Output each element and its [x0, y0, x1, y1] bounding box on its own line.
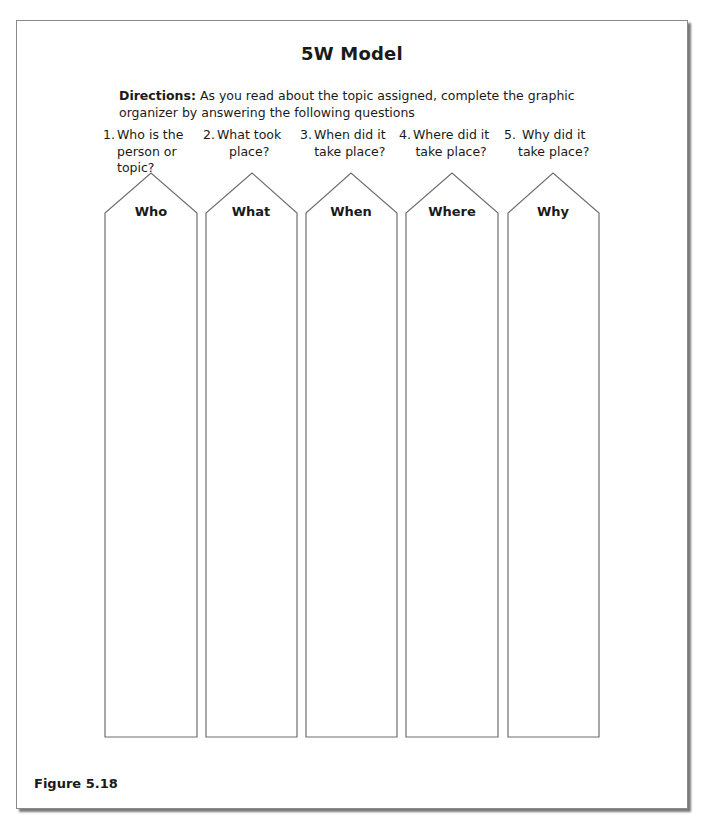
question-number: 5. — [504, 127, 516, 144]
question-line: What took — [217, 127, 281, 144]
arrow-label-where: Where — [407, 205, 499, 220]
directions-text: Directions: As you read about the topic … — [119, 88, 599, 121]
question-text: Why did it take place? — [518, 127, 589, 160]
question-line: Where did it — [413, 127, 489, 144]
question-number: 1. — [103, 127, 115, 144]
question-line: place? — [217, 144, 281, 161]
question-line: take place? — [518, 144, 589, 161]
question-number: 4. — [399, 127, 411, 144]
question-text: Who is the person or topic? — [117, 127, 183, 177]
page-title: 5W Model — [17, 43, 687, 64]
question-line: When did it — [314, 127, 386, 144]
question-line: person or — [117, 144, 183, 161]
question-line: topic? — [117, 160, 183, 177]
question-number: 3. — [300, 127, 312, 144]
arrow-label-what: What — [206, 205, 298, 220]
question-text: Where did it take place? — [413, 127, 489, 160]
question-text: What took place? — [217, 127, 281, 160]
question-line: Why did it — [518, 127, 589, 144]
arrow-label-who: Who — [106, 205, 198, 220]
question-line: take place? — [413, 144, 489, 161]
question-line: take place? — [314, 144, 386, 161]
question-line: Who is the — [117, 127, 183, 144]
worksheet-frame: 5W Model Directions: As you read about t… — [16, 20, 688, 809]
question-text: When did it take place? — [314, 127, 386, 160]
arrow-label-when: When — [306, 205, 398, 220]
figure-caption: Figure 5.18 — [34, 776, 118, 791]
directions-lead: Directions: — [119, 88, 196, 103]
question-number: 2. — [203, 127, 215, 144]
arrow-label-why: Why — [508, 205, 600, 220]
